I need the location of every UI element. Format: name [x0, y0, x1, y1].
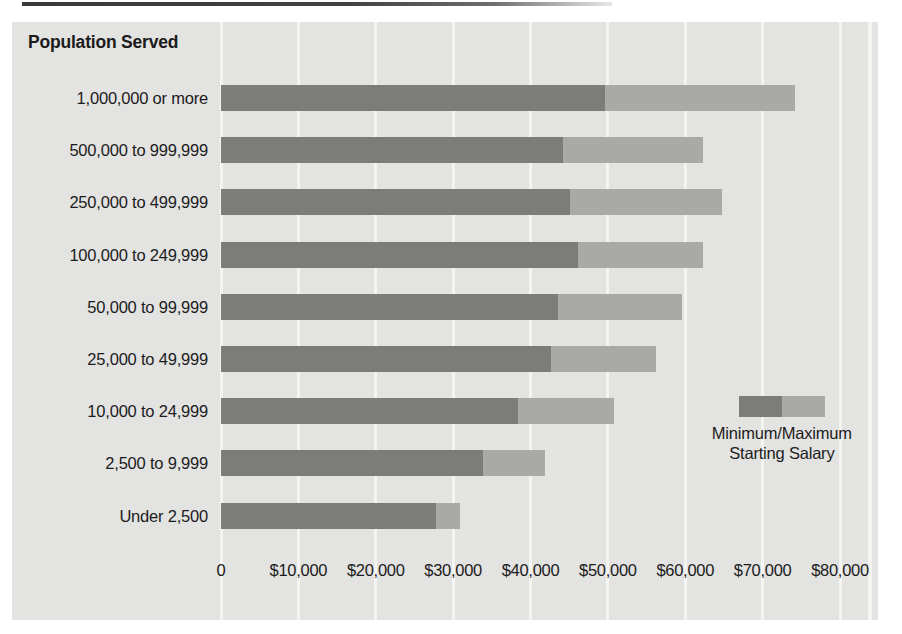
category-label: 2,500 to 9,999 [12, 454, 208, 473]
bar-segment-maximum [551, 346, 655, 372]
range-bar [221, 398, 614, 424]
category-label: 10,000 to 24,999 [12, 402, 208, 421]
bar-segment-maximum [558, 294, 682, 320]
bar-segment-maximum [436, 503, 460, 529]
chart-row: 100,000 to 249,999 [12, 242, 878, 294]
bar-segment-minimum [221, 346, 551, 372]
bar-segment-minimum [221, 503, 436, 529]
bar-segment-minimum [221, 137, 563, 163]
top-horizontal-rule [22, 2, 612, 6]
bar-segment-maximum [570, 189, 722, 215]
x-tick-label: $30,000 [424, 561, 482, 580]
x-tick-label: $40,000 [502, 561, 560, 580]
range-bar [221, 294, 682, 320]
range-bar [221, 503, 460, 529]
bar-segment-maximum [483, 450, 545, 476]
legend-swatch-maximum [782, 396, 825, 417]
category-label: 100,000 to 249,999 [12, 246, 208, 265]
category-label: Under 2,500 [12, 507, 208, 526]
chart-row: 500,000 to 999,999 [12, 137, 878, 189]
bar-segment-maximum [563, 137, 703, 163]
x-tick-label: 0 [217, 561, 226, 580]
x-tick-label: $70,000 [734, 561, 792, 580]
range-bar [221, 189, 722, 215]
bar-segment-minimum [221, 398, 518, 424]
chart-panel: Population Served 1,000,000 or more500,0… [12, 22, 878, 620]
range-bar [221, 137, 703, 163]
bar-segment-maximum [605, 85, 795, 111]
x-tick-label: $80,000 [811, 561, 869, 580]
bar-segment-minimum [221, 242, 578, 268]
range-bar [221, 242, 703, 268]
chart-row: 50,000 to 99,999 [12, 294, 878, 346]
range-bar [221, 85, 795, 111]
x-tick-label: $10,000 [270, 561, 328, 580]
category-label: 500,000 to 999,999 [12, 141, 208, 160]
range-bar [221, 346, 656, 372]
chart-row: 1,000,000 or more [12, 85, 878, 137]
x-tick-label: $60,000 [656, 561, 714, 580]
bar-segment-minimum [221, 294, 558, 320]
x-tick-label: $50,000 [579, 561, 637, 580]
chart-row: Under 2,500 [12, 503, 878, 555]
chart-row: 250,000 to 499,999 [12, 189, 878, 241]
category-label: 1,000,000 or more [12, 89, 208, 108]
category-label: 50,000 to 99,999 [12, 298, 208, 317]
axis-title: Population Served [28, 32, 224, 53]
bar-segment-maximum [518, 398, 614, 424]
category-label: 250,000 to 499,999 [12, 193, 208, 212]
bar-segment-minimum [221, 85, 605, 111]
legend-swatches [739, 396, 825, 417]
chart-legend: Minimum/Maximum Starting Salary [697, 396, 867, 463]
bar-segment-maximum [578, 242, 703, 268]
x-tick-label: $20,000 [347, 561, 405, 580]
range-bar [221, 450, 545, 476]
legend-swatch-minimum [739, 396, 782, 417]
category-label: 25,000 to 49,999 [12, 350, 208, 369]
bar-segment-minimum [221, 450, 483, 476]
bar-segment-minimum [221, 189, 570, 215]
chart-row: 25,000 to 49,999 [12, 346, 878, 398]
legend-label-line-2: Starting Salary [697, 444, 867, 463]
legend-label-line-1: Minimum/Maximum [697, 424, 867, 443]
